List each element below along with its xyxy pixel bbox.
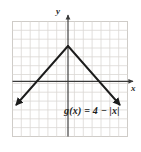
x-axis-label: x bbox=[131, 84, 136, 93]
equation-annotation: g(x) = 4 − |x| bbox=[64, 106, 120, 116]
y-axis-label: y bbox=[56, 7, 60, 16]
graph-figure: y x g(x) = 4 − |x| bbox=[0, 0, 141, 152]
coordinate-plane bbox=[0, 0, 141, 152]
grid-frame bbox=[13, 22, 128, 137]
